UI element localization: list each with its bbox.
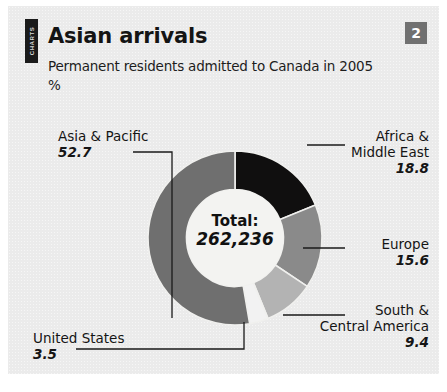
donut-total-label: Total:	[212, 212, 259, 230]
callout-label-africa-middle-east-line1: Africa &	[351, 129, 429, 145]
callout-united-states: United States 3.5	[33, 331, 124, 363]
page-title: Asian arrivals	[48, 24, 207, 48]
donut-center-label: Total: 262,236	[174, 212, 296, 249]
callout-south-central-america: South & Central America 9.4	[320, 303, 429, 351]
callout-value-asia-pacific: 52.7	[58, 145, 148, 161]
section-rule-label: CHARTS	[29, 27, 35, 56]
figure-root: CHARTS Asian arrivals Permanent resident…	[0, 0, 447, 392]
callout-label-africa-middle-east-line2: Middle East	[351, 145, 429, 161]
callout-value-south-central-america: 9.4	[320, 335, 429, 351]
figure-number-badge: 2	[405, 22, 427, 44]
section-rule-bar: CHARTS	[25, 19, 38, 63]
callout-asia-pacific: Asia & Pacific 52.7	[58, 129, 148, 161]
chart-unit-label: %	[48, 77, 61, 93]
donut-total-value: 262,236	[196, 229, 273, 249]
callout-label-south-central-america-line1: South &	[320, 303, 429, 319]
callout-value-africa-middle-east: 18.8	[351, 161, 429, 177]
callout-label-asia-pacific: Asia & Pacific	[58, 129, 148, 145]
chart-subtitle: Permanent residents admitted to Canada i…	[48, 58, 373, 74]
callout-europe: Europe 15.6	[382, 237, 429, 269]
callout-label-south-central-america-line2: Central America	[320, 319, 429, 335]
callout-label-europe: Europe	[382, 237, 429, 253]
callout-value-europe: 15.6	[382, 253, 429, 269]
callout-africa-middle-east: Africa & Middle East 18.8	[351, 129, 429, 177]
callout-value-united-states: 3.5	[33, 347, 124, 363]
callout-label-united-states: United States	[33, 331, 124, 347]
